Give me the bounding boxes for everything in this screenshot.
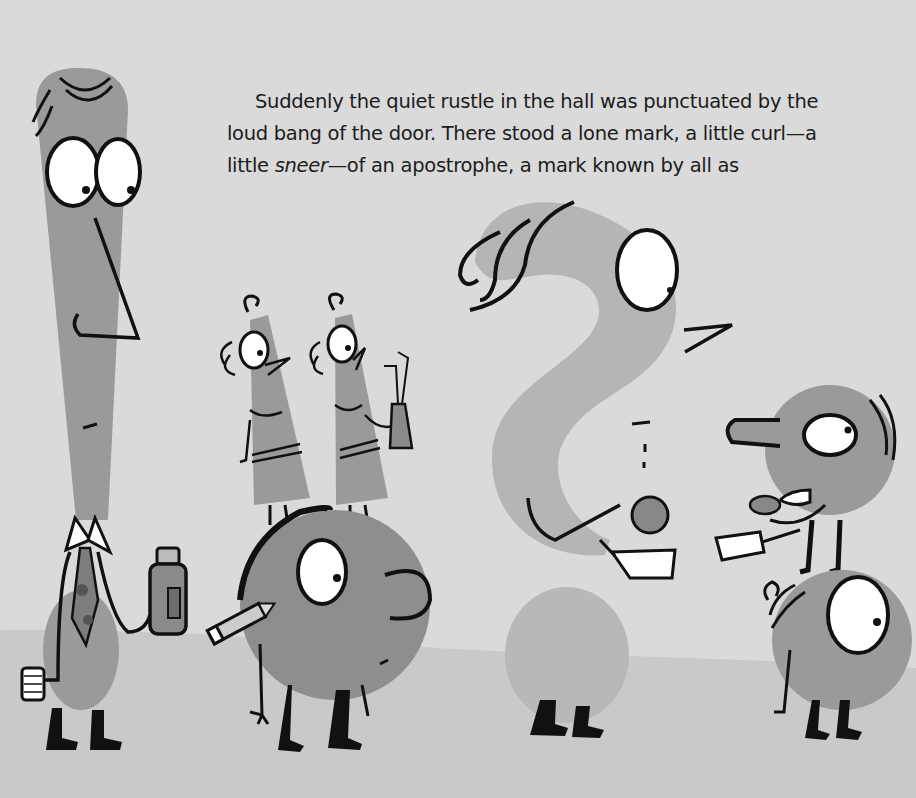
story-text: Suddenly the quiet rustle in the hall wa…	[227, 86, 827, 182]
story-line-3-start: little	[227, 154, 275, 177]
story-line-1: Suddenly the quiet rustle in the hall wa…	[227, 86, 827, 118]
story-line-3-end: —of an apostrophe, a mark known by all a…	[328, 154, 739, 177]
story-line-3: little sneer—of an apostrophe, a mark kn…	[227, 150, 827, 182]
story-line-2: loud bang of the door. There stood a lon…	[227, 118, 827, 150]
story-emphasis-sneer: sneer	[275, 154, 328, 177]
